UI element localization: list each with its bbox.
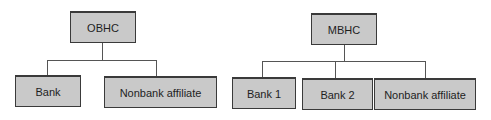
connector-mbhc-bank1	[262, 61, 263, 77]
node-nonbank-affiliate-left: Nonbank affiliate	[104, 76, 217, 108]
node-bank: Bank	[15, 75, 81, 107]
connector-mbhc-bank2	[335, 61, 336, 78]
connector-mbhc-bar	[262, 61, 426, 62]
node-obhc: OBHC	[70, 11, 136, 43]
node-nonbank-affiliate-right: Nonbank affiliate	[374, 78, 476, 110]
node-bank-1: Bank 1	[232, 77, 296, 109]
connector-obhc-nonbank	[156, 60, 157, 76]
connector-mbhc-stem	[344, 45, 345, 61]
node-bank-2: Bank 2	[302, 78, 373, 110]
connector-obhc-stem	[102, 43, 103, 60]
connector-obhc-bank	[47, 60, 48, 75]
connector-mbhc-nonbank	[425, 61, 426, 78]
node-mbhc: MBHC	[311, 13, 377, 45]
connector-obhc-bar	[47, 60, 157, 61]
